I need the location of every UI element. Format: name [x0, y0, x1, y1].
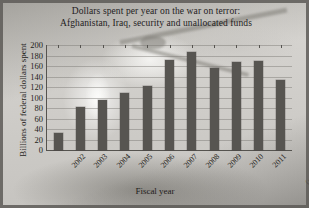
- y-axis-tick-label: 140: [30, 72, 43, 82]
- bar: [254, 61, 263, 150]
- x-axis-tick-mark: [103, 45, 104, 48]
- x-axis-tick-mark: [80, 45, 81, 48]
- bar: [76, 107, 85, 150]
- bar: [232, 62, 241, 150]
- bar: [210, 68, 219, 150]
- y-axis-tick-label: 40: [35, 124, 44, 134]
- chart-title-line-2: Afghanistan, Iraq, security and unalloca…: [38, 18, 274, 30]
- bar: [276, 80, 285, 150]
- x-axis-tick-mark: [259, 45, 260, 48]
- x-axis-tick-mark: [281, 45, 282, 48]
- y-axis-title: Billions of federal dollars spent: [18, 25, 28, 175]
- x-axis-tick-mark: [125, 45, 126, 48]
- y-axis-tick-label: 0: [39, 145, 43, 155]
- x-axis-tick-mark: [170, 45, 171, 48]
- bar: [120, 93, 129, 150]
- y-axis-tick-label: 80: [35, 103, 44, 113]
- bar: [143, 86, 152, 150]
- bar: [165, 60, 174, 150]
- chart-figure: Dollars spent per year on the war on ter…: [0, 0, 309, 208]
- x-axis-tick-mark: [58, 45, 59, 48]
- x-axis-tick-mark: [236, 45, 237, 48]
- chart-title: Dollars spent per year on the war on ter…: [38, 6, 274, 29]
- bar: [54, 133, 63, 150]
- x-axis-title: Fiscal year: [105, 186, 205, 196]
- y-axis-tick-label: 180: [30, 51, 43, 61]
- plot-area: 200180160140120100806040200 200220032004…: [47, 45, 292, 150]
- y-axis-tick-label: 120: [30, 82, 43, 92]
- y-axis-tick-label: 100: [30, 93, 43, 103]
- gridline: [47, 56, 292, 57]
- bar: [98, 100, 107, 150]
- x-axis-tick-mark: [147, 45, 148, 48]
- y-axis-tick-label: 60: [35, 114, 44, 124]
- y-axis-tick-label: 160: [30, 61, 43, 71]
- x-axis-tick-mark: [192, 45, 193, 48]
- bar: [187, 52, 196, 150]
- x-axis-tick-mark: [214, 45, 215, 48]
- y-axis-tick-label: 200: [30, 40, 43, 50]
- chart-title-line-1: Dollars spent per year on the war on ter…: [72, 6, 240, 16]
- x-axis-line: [46, 150, 292, 151]
- y-axis-tick-label: 20: [35, 135, 44, 145]
